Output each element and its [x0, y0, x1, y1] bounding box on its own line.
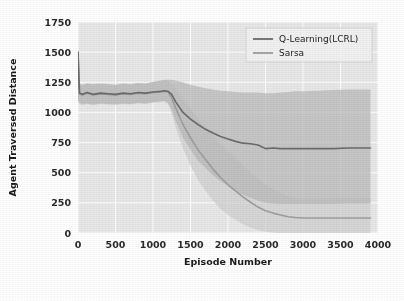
chart-figure: 0500100015002000250030003500400002505007…: [0, 0, 404, 301]
legend-label: Q-Learning(LCRL): [279, 34, 358, 44]
x-tick-label: 1500: [177, 239, 204, 250]
x-tick-label: 2500: [252, 239, 279, 250]
y-tick-label: 1250: [45, 77, 72, 88]
x-tick-label: 1000: [140, 239, 167, 250]
y-tick-label: 750: [51, 137, 71, 148]
x-axis-title: Episode Number: [184, 256, 272, 267]
x-tick-label: 3000: [290, 239, 317, 250]
x-tick-label: 500: [106, 239, 126, 250]
y-tick-label: 250: [51, 197, 71, 208]
legend-label: Sarsa: [279, 48, 304, 58]
y-tick-label: 1750: [45, 17, 72, 28]
y-tick-label: 0: [64, 228, 71, 239]
chart-canvas: 0500100015002000250030003500400002505007…: [0, 0, 404, 301]
y-tick-label: 1500: [45, 47, 72, 58]
y-axis-title: Agent Traversed Distance: [7, 59, 18, 197]
legend: Q-Learning(LCRL)Sarsa: [246, 28, 372, 62]
x-tick-label: 3500: [327, 239, 354, 250]
x-tick-label: 0: [75, 239, 82, 250]
y-tick-label: 500: [51, 167, 71, 178]
y-tick-label: 1000: [45, 107, 72, 118]
x-tick-label: 4000: [365, 239, 392, 250]
x-tick-label: 2000: [215, 239, 242, 250]
legend-box: [246, 28, 372, 62]
